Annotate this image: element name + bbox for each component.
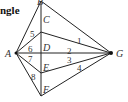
angle-3: 3 [67,55,72,65]
angle-1: 1 [77,36,82,46]
angle-5: 5 [30,29,35,39]
segment-FG [41,53,111,96]
angle-4: 4 [77,63,82,73]
label-E: E [42,62,49,73]
point-A-dot [15,52,18,55]
label-F: F [42,84,50,95]
geometry-diagram: A B C D E F G 1 2 3 4 5 6 7 8 [0,0,128,102]
angle-6: 6 [28,44,33,54]
angle-8: 8 [31,72,36,82]
point-G-dot [109,51,113,55]
segment-EG [41,53,111,73]
label-C: C [43,14,50,25]
segment-CG [41,32,111,53]
segment-BG [41,1,111,53]
label-B: B [37,0,43,7]
label-A: A [4,48,12,59]
angle-7: 7 [28,54,33,64]
label-G: G [116,48,123,59]
label-D: D [42,42,51,53]
